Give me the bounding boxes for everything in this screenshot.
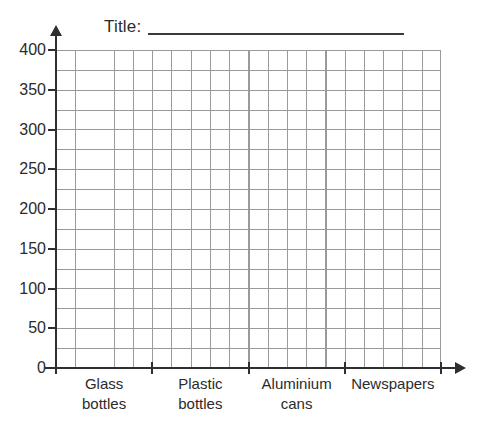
- y-axis-arrow-icon: [50, 25, 62, 36]
- chart-title-row: Title:: [104, 11, 404, 37]
- y-axis-tick-label: 200: [2, 201, 46, 217]
- y-axis-tick: [48, 288, 57, 290]
- x-axis-major-tick: [440, 362, 442, 374]
- y-axis-tick: [48, 129, 57, 131]
- x-axis-category-label-line2: bottles: [56, 394, 152, 414]
- chart-title-blank-line[interactable]: [148, 33, 404, 35]
- y-axis-tick-label: 50: [2, 320, 46, 336]
- y-axis-tick: [48, 168, 57, 170]
- x-axis-major-tick: [151, 362, 153, 374]
- plot-grid-area[interactable]: [56, 50, 441, 368]
- x-axis-arrow-icon: [455, 362, 466, 374]
- y-axis-tick-label: 0: [2, 360, 46, 376]
- chart-title-label: Title:: [104, 18, 141, 37]
- x-axis-category-label: Aluminiumcans: [249, 374, 345, 430]
- x-axis-major-tick: [248, 362, 250, 374]
- x-axis-category-label-line1: Plastic: [152, 374, 248, 394]
- x-axis-category-label-line2: cans: [249, 394, 345, 414]
- y-axis-tick-label: 250: [2, 161, 46, 177]
- y-axis-tick: [48, 248, 57, 250]
- y-axis-tick: [48, 208, 57, 210]
- y-axis-tick-label: 400: [2, 42, 46, 58]
- x-axis-major-tick: [344, 362, 346, 374]
- x-axis-category-label-line2: bottles: [152, 394, 248, 414]
- bar-chart-worksheet: Title: 400350300250200150100500 Glassbot…: [0, 0, 479, 440]
- y-axis-tick-label: 150: [2, 241, 46, 257]
- y-axis-labels: 400350300250200150100500: [0, 0, 46, 440]
- x-axis-category-label-line1: Newspapers: [345, 374, 441, 394]
- x-axis-category-label: Glassbottles: [56, 374, 152, 430]
- y-axis-line: [55, 34, 57, 369]
- y-axis-tick-label: 350: [2, 82, 46, 98]
- x-axis-category-labels: GlassbottlesPlasticbottlesAluminiumcansN…: [56, 374, 441, 430]
- x-axis-line: [45, 367, 457, 369]
- y-axis-tick-label: 100: [2, 281, 46, 297]
- x-axis-category-label-line1: Glass: [56, 374, 152, 394]
- y-axis-tick: [48, 49, 57, 51]
- x-axis-category-label-line1: Aluminium: [249, 374, 345, 394]
- y-axis-tick-label: 300: [2, 122, 46, 138]
- y-axis-tick: [48, 327, 57, 329]
- x-axis-category-label: Plasticbottles: [152, 374, 248, 430]
- x-axis-major-tick: [55, 362, 57, 374]
- x-axis-category-label: Newspapers: [345, 374, 441, 430]
- y-axis-tick: [48, 89, 57, 91]
